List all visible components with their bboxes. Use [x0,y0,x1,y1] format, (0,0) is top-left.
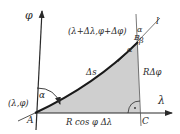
angle-alpha-a: α [39,90,45,100]
shaded-triangle [35,42,140,113]
point-a-coords: (λ,φ) [8,98,29,108]
phi-axis-label: φ [25,9,33,22]
spherical-triangle-diagram: φ λ (λ+Δλ,φ+Δφ) (λ,φ) A B C l Δs RΔφ R c… [0,0,180,134]
curve-label: Δs [85,67,97,77]
line-l-label: l [156,16,159,26]
point-b-coords: (λ+Δλ,φ+Δφ) [68,26,127,36]
point-c-label: C [142,116,149,126]
side-vertical-label: RΔφ [142,67,162,77]
right-angle-dot [134,107,136,109]
lambda-axis-label: λ [157,94,165,107]
angle-alpha-b-upper: α [137,25,143,34]
side-horizontal-label: R cos φ Δλ [65,117,112,127]
point-a-label: A [26,115,34,125]
angle-beta-b: β [138,36,144,45]
angle-alpha-b-lower: α [127,45,133,54]
